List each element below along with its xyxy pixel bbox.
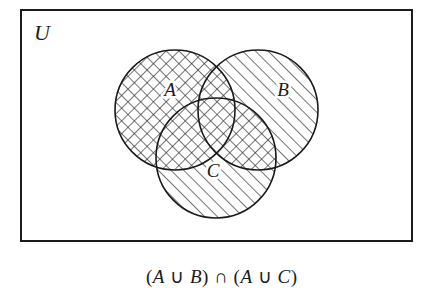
caption-set-c: C — [278, 266, 291, 287]
caption-set-a-2: A — [240, 266, 252, 287]
label-c-text: C — [207, 160, 220, 181]
label-c: C C — [207, 160, 220, 181]
label-b-text: B — [277, 79, 289, 100]
caption-open-paren-1: ( — [146, 266, 153, 287]
label-b: B B — [277, 79, 289, 100]
label-a-text: A — [162, 79, 176, 100]
caption-set-b: B — [190, 266, 202, 287]
label-a: A A — [162, 79, 176, 100]
caption-intersection: ∩ — [214, 266, 228, 287]
universe-label: U — [34, 20, 52, 45]
caption-close-paren-2: ) — [291, 266, 298, 287]
caption-union-1: ∪ — [170, 266, 185, 287]
caption-union-2: ∪ — [258, 266, 273, 287]
caption-close-paren-1: ) — [202, 266, 209, 287]
caption-set-a-1: A — [153, 266, 165, 287]
figure-caption: (A ∪ B) ∩ (A ∪ C) — [0, 243, 433, 288]
